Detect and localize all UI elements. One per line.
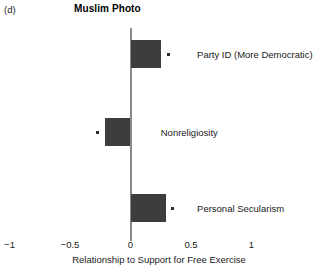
bar-nonreligiosity: [105, 118, 130, 146]
bar-label-personal-secularism: Personal Secularism: [197, 204, 284, 214]
point-marker-personal-secularism: [171, 207, 174, 210]
x-tick-label: 0.5: [184, 239, 197, 250]
point-marker-nonreligiosity: [96, 131, 99, 134]
bar-label-nonreligiosity: Nonreligiosity: [161, 128, 218, 138]
panel-letter: (d): [4, 4, 16, 15]
chart-title: Muslim Photo: [74, 3, 141, 14]
bar-party-id: [131, 40, 161, 68]
bar-personal-secularism: [131, 194, 166, 222]
x-tick-label: 1: [249, 239, 254, 250]
point-marker-party-id: [167, 53, 170, 56]
x-tick-label: −0.5: [61, 239, 80, 250]
chart-figure: (d) Muslim Photo Party ID (More Democrat…: [0, 0, 318, 273]
x-tick-label: 0: [128, 239, 133, 250]
x-tick-label: −1: [4, 239, 15, 250]
plot-area: Party ID (More Democratic) Nonreligiosit…: [0, 18, 318, 233]
bar-label-party-id: Party ID (More Democratic): [197, 50, 313, 60]
x-axis-title: Relationship to Support for Free Exercis…: [72, 254, 246, 265]
x-axis: −1 −0.5 0 0.5 1 Relationship to Support …: [0, 233, 318, 273]
